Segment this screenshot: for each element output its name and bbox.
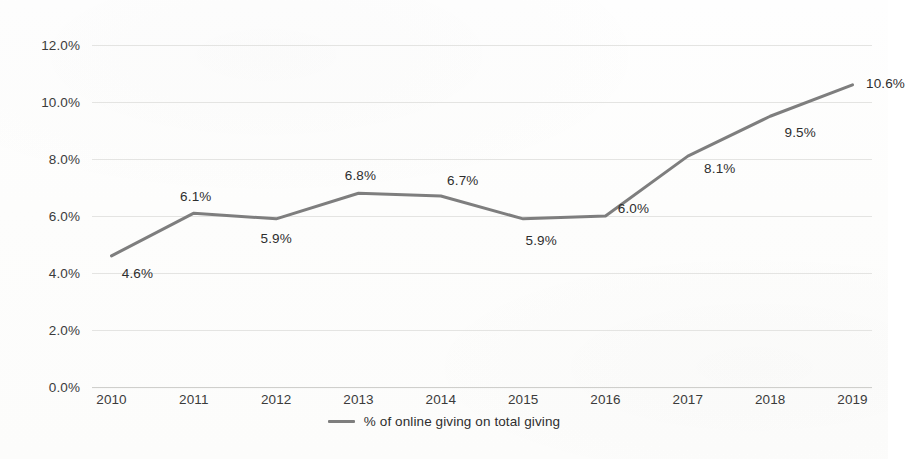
data-label-2014: 6.7%	[447, 173, 478, 188]
data-label-2011: 6.1%	[180, 189, 211, 204]
data-label-2012: 5.9%	[261, 230, 292, 245]
data-label-2015: 5.9%	[526, 232, 557, 247]
y-axis-label-0: 0.0%	[12, 380, 80, 395]
legend-item-label: % of online giving on total giving	[364, 414, 560, 429]
x-axis-label-2010: 2010	[82, 392, 142, 407]
chart-legend: % of online giving on total giving	[0, 414, 888, 429]
y-axis-label-8: 8.0%	[12, 152, 80, 167]
x-axis-label-2019: 2019	[823, 392, 883, 407]
x-axis-label-2012: 2012	[246, 392, 306, 407]
y-axis-label-4: 4.0%	[12, 266, 80, 281]
x-axis-label-2017: 2017	[658, 392, 718, 407]
x-axis-label-2014: 2014	[411, 392, 471, 407]
y-axis-label-6: 6.0%	[12, 209, 80, 224]
y-axis-label-10: 10.0%	[12, 95, 80, 110]
data-label-2016: 6.0%	[618, 201, 649, 216]
x-axis-label-2018: 2018	[740, 392, 800, 407]
data-label-2013: 6.8%	[345, 168, 376, 183]
y-axis-label-2: 2.0%	[12, 323, 80, 338]
series-line-online-giving	[92, 45, 872, 387]
plot-area: 4.6%6.1%5.9%6.8%6.7%5.9%6.0%8.1%9.5%10.6…	[92, 45, 872, 387]
x-axis-label-2015: 2015	[493, 392, 553, 407]
data-label-2017: 8.1%	[704, 161, 735, 176]
x-axis-label-2016: 2016	[576, 392, 636, 407]
x-axis-label-2013: 2013	[329, 392, 389, 407]
data-label-2010: 4.6%	[122, 265, 153, 280]
x-axis-label-2011: 2011	[164, 392, 224, 407]
data-label-2018: 9.5%	[785, 125, 816, 140]
gridline-0	[92, 387, 872, 388]
series-polyline	[112, 85, 853, 256]
data-label-2019: 10.6%	[866, 75, 905, 90]
y-axis-label-12: 12.0%	[12, 38, 80, 53]
line-marker-icon	[328, 420, 355, 423]
